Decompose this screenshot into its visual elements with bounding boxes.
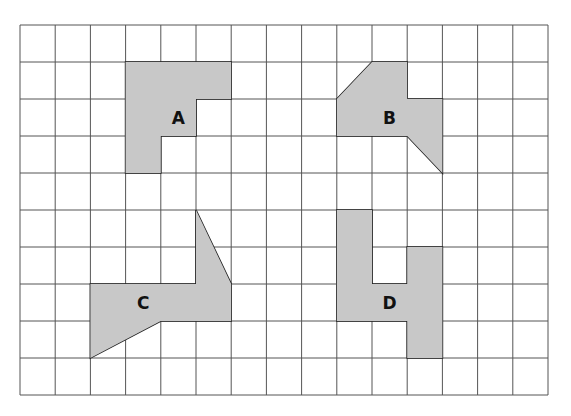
shape-label-d: D (383, 293, 397, 313)
shape-label-a: A (172, 108, 186, 128)
shape-label-b: B (383, 108, 396, 128)
shape-label-c: C (137, 293, 149, 313)
shape-d (337, 210, 443, 358)
grid-diagram: A B C D (0, 0, 571, 416)
